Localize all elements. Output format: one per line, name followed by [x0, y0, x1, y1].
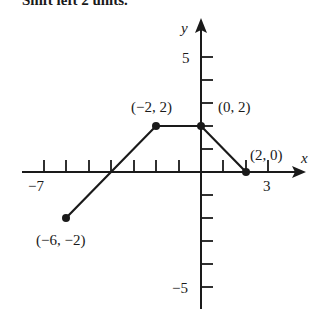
point-label-2-0: (2, 0) [250, 147, 283, 164]
point-0-2 [197, 122, 205, 130]
y-tick-label-neg5: −5 [172, 280, 188, 296]
y-tick-label-5: 5 [182, 50, 190, 66]
x-tick-label-3: 3 [263, 178, 271, 194]
point-neg2-2 [152, 122, 160, 130]
graph-plot: y x 5 −5 −7 3 (−6, −2) (−2, 2) (0, 2) (2… [0, 0, 317, 309]
point-label-0-2: (0, 2) [218, 99, 251, 116]
y-axis [195, 18, 213, 309]
point-2-0 [242, 168, 250, 176]
y-axis-label: y [179, 20, 188, 36]
x-tick-label-neg7: −7 [28, 178, 44, 194]
point-label-neg6-neg2: (−6, −2) [36, 232, 85, 249]
x-axis-label: x [300, 150, 308, 166]
point-label-neg2-2: (−2, 2) [131, 99, 172, 116]
point-neg6-neg2 [62, 214, 70, 222]
